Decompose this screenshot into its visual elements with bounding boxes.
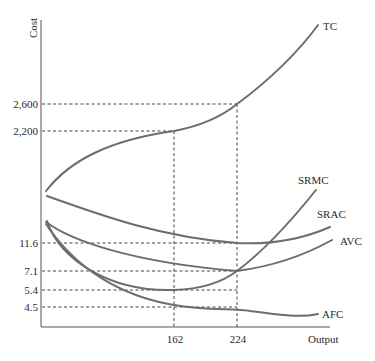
x-axis-title: Output <box>308 333 339 345</box>
afc-curve <box>46 224 318 316</box>
tc-curve <box>46 25 318 191</box>
y-axis-title: Cost <box>27 18 39 38</box>
y-tick-4-5: 4.5 <box>24 301 38 313</box>
avc-label: AVC <box>340 235 362 247</box>
avc-curve <box>46 222 332 271</box>
srac-label: SRAC <box>317 208 346 220</box>
y-tick-5-4: 5.4 <box>24 284 38 296</box>
afc-label: AFC <box>322 308 343 320</box>
srmc-curve <box>47 190 316 290</box>
srac-curve <box>47 196 330 243</box>
y-tick-2200: 2,200 <box>13 125 38 137</box>
y-tick-2600: 2,600 <box>13 98 38 110</box>
y-tick-7-1: 7.1 <box>24 265 38 277</box>
x-tick-224: 224 <box>230 333 247 345</box>
x-tick-162: 162 <box>167 333 184 345</box>
cost-curves-chart: Cost 2,600 2,200 11.6 7.1 5.4 4.5 162 22… <box>0 0 375 361</box>
srmc-label: SRMC <box>298 174 329 186</box>
y-tick-11-6: 11.6 <box>19 237 38 249</box>
tc-label: TC <box>323 20 337 32</box>
